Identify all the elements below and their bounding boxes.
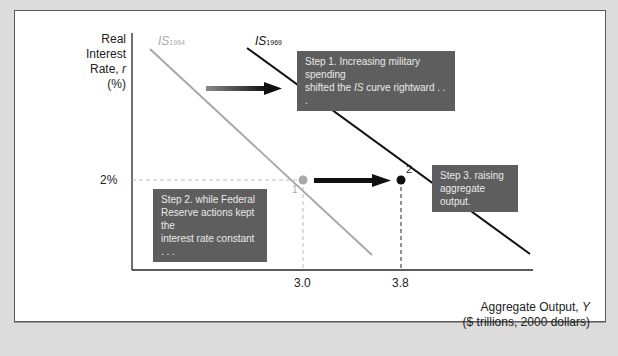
tick-2pct: 2%: [100, 173, 117, 188]
point-2: [397, 176, 406, 185]
step1-line2: shifted the IS curve rightward . . .: [305, 81, 447, 107]
point-2-label: 2: [406, 162, 412, 177]
x-axis-label: Aggregate Output, Y ($ trillions, 2000 d…: [340, 300, 590, 330]
step2-annotation: Step 2. while Federal Reserve actions ke…: [153, 189, 267, 262]
tick-3-8: 3.8: [392, 276, 409, 291]
x-label-line1: Aggregate Output, Y: [340, 300, 590, 315]
y-axis-label: Real Interest Rate, r (%): [64, 32, 126, 92]
is-1969-label: IS1969: [255, 34, 282, 50]
point-1: [299, 176, 308, 185]
is-1964-label: IS1964: [158, 34, 185, 50]
step1-annotation: Step 1. Increasing military spending shi…: [297, 51, 455, 111]
step3-annotation: Step 3. raising aggregate output.: [432, 165, 518, 212]
tick-3-0: 3.0: [294, 276, 311, 291]
point-1-label: 1: [292, 182, 298, 197]
output-arrow-icon: [314, 174, 391, 187]
shift-arrow-icon: [206, 82, 282, 95]
y-label-line3: Rate, r: [64, 62, 126, 77]
